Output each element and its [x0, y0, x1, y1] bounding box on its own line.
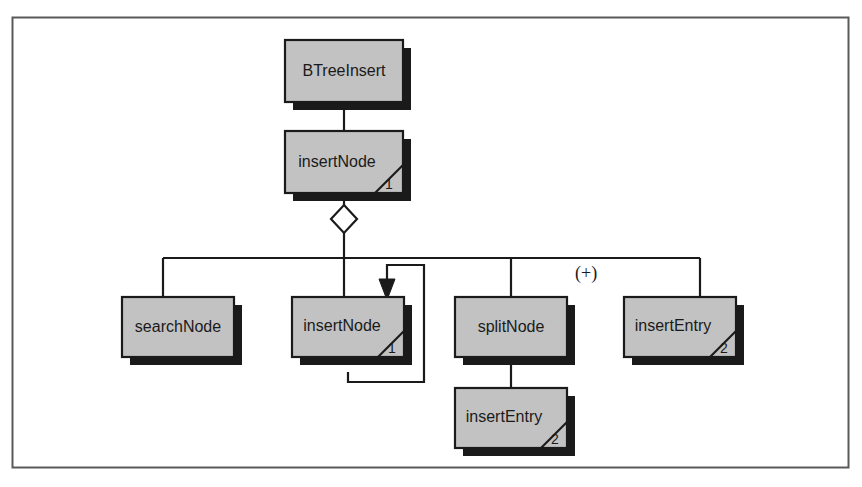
- node-splitnode[interactable]: splitNode: [455, 297, 575, 365]
- node-corner-number: 1: [388, 340, 396, 356]
- node-insertnode-recursive[interactable]: insertNode 1: [292, 297, 412, 365]
- node-insertnode-top[interactable]: insertNode 1: [285, 131, 411, 201]
- node-label: insertNode: [298, 153, 375, 170]
- node-label: splitNode: [478, 318, 545, 335]
- node-label: searchNode: [135, 318, 221, 335]
- node-corner-number: 2: [720, 340, 728, 356]
- node-btreeinsert[interactable]: BTreeInsert: [285, 40, 411, 110]
- node-searchnode[interactable]: searchNode: [122, 297, 242, 365]
- call-hierarchy-diagram: BTreeInsert insertNode 1 searchNode inse…: [0, 0, 862, 487]
- node-corner-number: 2: [551, 431, 559, 447]
- diagram-canvas: BTreeInsert insertNode 1 searchNode inse…: [0, 0, 862, 487]
- page-background: [0, 0, 862, 487]
- node-label: BTreeInsert: [303, 62, 387, 79]
- node-insertentry-right[interactable]: insertEntry 2: [624, 297, 744, 365]
- annotation-plus-marker: (+): [575, 263, 597, 284]
- node-label: insertEntry: [466, 408, 542, 425]
- node-corner-number: 1: [385, 176, 393, 192]
- node-label: insertNode: [303, 317, 380, 334]
- node-insertentry-bottom[interactable]: insertEntry 2: [455, 388, 575, 456]
- node-label: insertEntry: [635, 317, 711, 334]
